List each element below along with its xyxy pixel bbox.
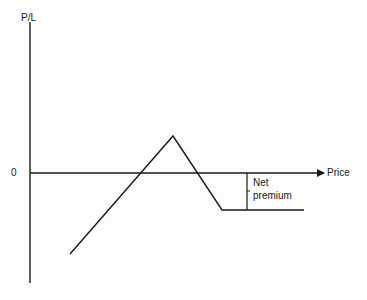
x-axis-label: Price — [327, 167, 350, 179]
origin-label: 0 — [11, 167, 17, 179]
net-premium-label-line2: premium — [253, 190, 292, 202]
payoff-plot — [0, 0, 367, 300]
net-premium-label-line1: Net — [253, 177, 269, 189]
y-axis-label: P/L — [21, 12, 36, 24]
payoff-diagram: P/L 0 Price Net premium — [0, 0, 367, 300]
